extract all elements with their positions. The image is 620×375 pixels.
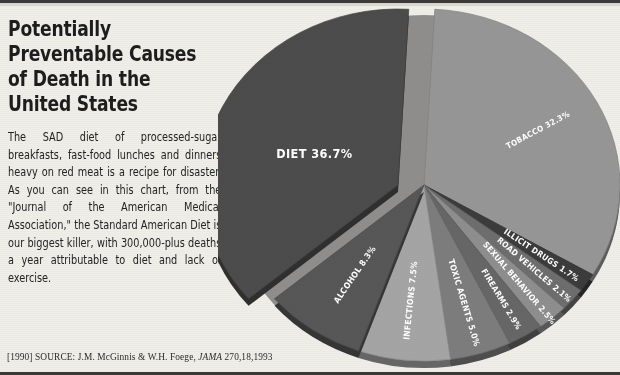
article-text-column: Potentially Preventable Causes of Death … xyxy=(8,17,226,287)
article-body: The SAD diet of processed-sugar breakfas… xyxy=(8,129,221,287)
source-prefix: [1990] SOURCE: J.M. McGinnis & W.H. Foeg… xyxy=(7,352,198,362)
pie-chart: TOBACCO 32.3%ILLICIT DRUGS 1.7%ROAD VEHI… xyxy=(218,0,620,371)
magazine-page: Potentially Preventable Causes of Death … xyxy=(0,0,620,375)
pie-chart-svg: TOBACCO 32.3%ILLICIT DRUGS 1.7%ROAD VEHI… xyxy=(218,0,620,371)
pie-label-diet: DIET 36.7% xyxy=(276,146,352,161)
page-title: Potentially Preventable Causes of Death … xyxy=(8,17,211,117)
